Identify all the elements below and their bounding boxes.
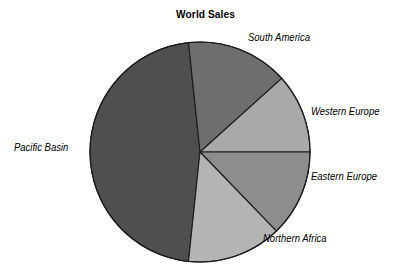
- slice-label-pacific-basin: Pacific Basin: [14, 142, 68, 153]
- pie-chart-figure: World Sales South America Western Europe…: [0, 0, 411, 276]
- pie-chart-canvas: [0, 0, 411, 276]
- slice-label-northern-africa: Northern Africa: [263, 233, 327, 244]
- pie-slice-pacific-basin[interactable]: [90, 43, 200, 262]
- pie-slices-group: [90, 42, 310, 262]
- slice-label-eastern-europe: Eastern Europe: [311, 171, 377, 182]
- slice-label-south-america: South America: [248, 32, 310, 43]
- slice-label-western-europe: Western Europe: [311, 106, 379, 117]
